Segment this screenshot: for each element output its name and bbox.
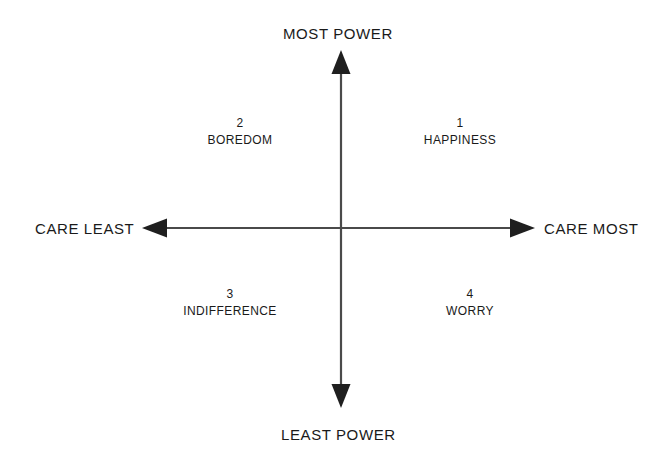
- quadrant-name: WORRY: [370, 305, 570, 317]
- quadrant-label-boredom: 2 BOREDOM: [140, 117, 340, 146]
- axis-label-most-power: MOST POWER: [283, 26, 393, 41]
- quadrant-name: INDIFFERENCE: [130, 305, 330, 317]
- arrow-up-icon: [332, 50, 351, 74]
- axis-label-care-most: CARE MOST: [544, 221, 639, 236]
- quadrant-diagram: MOST POWER LEAST POWER CARE LEAST CARE M…: [0, 0, 666, 467]
- quadrant-number: 3: [130, 288, 330, 300]
- quadrant-label-happiness: 1 HAPPINESS: [360, 117, 560, 146]
- quadrant-number: 2: [140, 117, 340, 129]
- quadrant-number: 1: [360, 117, 560, 129]
- arrow-down-icon: [332, 384, 351, 408]
- quadrant-label-indifference: 3 INDIFFERENCE: [130, 288, 330, 317]
- axis-label-least-power: LEAST POWER: [281, 427, 396, 442]
- arrow-right-icon: [510, 219, 535, 238]
- quadrant-label-worry: 4 WORRY: [370, 288, 570, 317]
- quadrant-number: 4: [370, 288, 570, 300]
- quadrant-name: BOREDOM: [140, 134, 340, 146]
- arrow-left-icon: [142, 219, 167, 238]
- axis-label-care-least: CARE LEAST: [35, 221, 134, 236]
- quadrant-name: HAPPINESS: [360, 134, 560, 146]
